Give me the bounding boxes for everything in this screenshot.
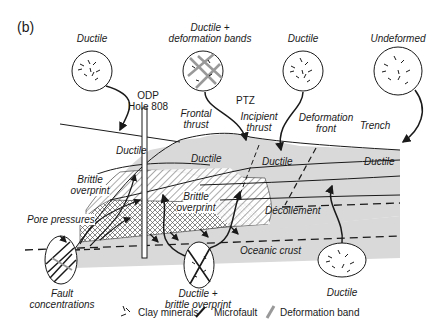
inset-arrow-4 bbox=[403, 90, 422, 142]
oceanic-crust-label: Oceanic crust bbox=[240, 245, 301, 256]
borehole-label-1: ODP bbox=[137, 90, 159, 101]
inset-ductile-brittle bbox=[184, 242, 214, 288]
deformation-front-label-2: front bbox=[316, 123, 336, 134]
legend-deformation-band-icon bbox=[267, 306, 274, 318]
legend-microfault-label: Microfault bbox=[214, 307, 257, 318]
incipient-thrust-label-1: Incipient bbox=[240, 111, 277, 122]
inset-label-fault-1: Fault bbox=[51, 288, 73, 299]
ductile-zone-label-1: Ductile bbox=[116, 145, 147, 156]
inset-label-ductile-brittle-1: Ductile + bbox=[178, 288, 217, 299]
inset-label-ductile-bands-1: Ductile + bbox=[190, 22, 229, 33]
inset-ductile-bands bbox=[183, 51, 223, 91]
ductile-zone-label-2: Ductile bbox=[191, 153, 222, 164]
brittle-overprint-label-1b: overprint bbox=[71, 185, 110, 196]
decollement-label: Décollement bbox=[265, 205, 321, 216]
ductile-zone-label-4: Ductile bbox=[364, 156, 395, 167]
brittle-overprint-label-2b: overprint bbox=[177, 202, 216, 213]
inset-ductile-3 bbox=[318, 243, 366, 277]
inset-ductile-1 bbox=[72, 51, 112, 91]
borehole-icon bbox=[142, 108, 147, 258]
ptz-label: PTZ bbox=[236, 95, 255, 106]
inset-label-ductile-bands-2: deformation bands bbox=[169, 33, 252, 44]
deformation-front-label-1: Deformation bbox=[299, 112, 353, 123]
pore-pressures-label: Pore pressures bbox=[27, 214, 95, 225]
inset-label-fault-2: concentrations bbox=[29, 299, 94, 310]
legend-clay-minerals-label: Clay minerals bbox=[138, 307, 199, 318]
inset-label-ductile-3: Ductile bbox=[327, 287, 358, 298]
trench-label: Trench bbox=[360, 120, 390, 131]
frontal-thrust-label-1: Frontal bbox=[180, 108, 211, 119]
brittle-overprint-label-1a: Brittle bbox=[77, 174, 103, 185]
incipient-thrust-label-2: thrust bbox=[246, 122, 271, 133]
panel-label: (b) bbox=[17, 22, 34, 33]
borehole-label-2: Hole 808 bbox=[128, 101, 168, 112]
brittle-overprint-label-2a: Brittle bbox=[183, 191, 209, 202]
inset-undeformed bbox=[374, 47, 422, 95]
inset-label-undeformed: Undeformed bbox=[370, 33, 425, 44]
inset-ductile-2 bbox=[283, 51, 323, 91]
inset-label-ductile-2: Ductile bbox=[288, 33, 319, 44]
frontal-thrust-label-2: thrust bbox=[183, 119, 208, 130]
legend-clay-minerals-icon bbox=[121, 306, 130, 316]
inset-fault-concentrations bbox=[45, 236, 77, 284]
legend-deformation-band-label: Deformation band bbox=[280, 307, 360, 318]
inset-arrow-1 bbox=[106, 86, 130, 130]
ductile-zone-label-3: Ductile bbox=[262, 156, 293, 167]
inset-label-ductile-1: Ductile bbox=[77, 33, 108, 44]
